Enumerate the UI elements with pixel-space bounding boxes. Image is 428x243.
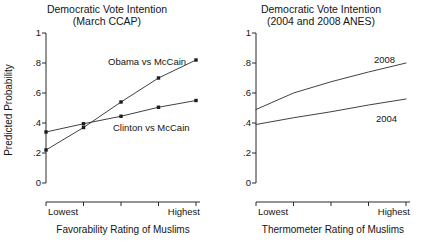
series-label-2004: 2004: [376, 113, 397, 124]
x-category-highest: Highest: [378, 206, 411, 217]
y-tick-label: .2: [243, 147, 251, 158]
x-category-highest: Highest: [168, 206, 201, 217]
series-label-obama-vs-mccain: Obama vs McCain: [108, 56, 186, 67]
y-tick-label: .2: [33, 147, 41, 158]
x-category-lowest: Lowest: [258, 206, 288, 217]
panel-anes: Democratic Vote Intention (2004 and 2008…: [214, 0, 428, 243]
series-group: [44, 58, 197, 151]
y-tick-group: 1.8.6.4.20: [33, 27, 46, 188]
x-axis-title: Thermometer Rating of Muslims: [262, 224, 404, 235]
series-label-2008: 2008: [374, 54, 395, 65]
y-tick-label: .8: [243, 57, 251, 68]
data-point: [119, 115, 122, 118]
y-tick-label: .6: [33, 87, 41, 98]
data-point: [82, 126, 85, 129]
series-label-clinton-vs-mccain: Clinton vs McCain: [113, 122, 190, 133]
data-point: [44, 148, 47, 151]
data-point: [44, 130, 47, 133]
y-tick-label: 1: [246, 27, 251, 38]
x-axis-title: Favorability Rating of Muslims: [56, 224, 189, 235]
figure-two-panel-line-charts: Democratic Vote Intention (March CCAP) 1…: [0, 0, 428, 243]
y-tick-label: 0: [36, 177, 41, 188]
data-point: [157, 106, 160, 109]
y-tick-label: .8: [33, 57, 41, 68]
y-tick-label: 1: [36, 27, 41, 38]
data-point: [119, 100, 122, 103]
y-axis-title: Predicted Probability: [3, 64, 14, 156]
data-point: [82, 122, 85, 125]
y-tick-label: .6: [243, 87, 251, 98]
data-point: [194, 99, 197, 102]
y-tick-group: 1.8.6.4.20: [243, 27, 256, 188]
plot-area-anes: 1.8.6.4.20 Lowest Highest Thermometer Ra…: [214, 0, 428, 243]
data-point: [157, 76, 160, 79]
y-tick-label: .4: [33, 117, 41, 128]
y-tick-label: .4: [243, 117, 251, 128]
x-category-lowest: Lowest: [48, 206, 78, 217]
panel-march-ccap: Democratic Vote Intention (March CCAP) 1…: [0, 0, 214, 243]
y-tick-label: 0: [246, 177, 251, 188]
data-point: [194, 58, 197, 61]
plot-area-march-ccap: 1.8.6.4.20 Lowest Highest Favorability R…: [0, 0, 214, 243]
